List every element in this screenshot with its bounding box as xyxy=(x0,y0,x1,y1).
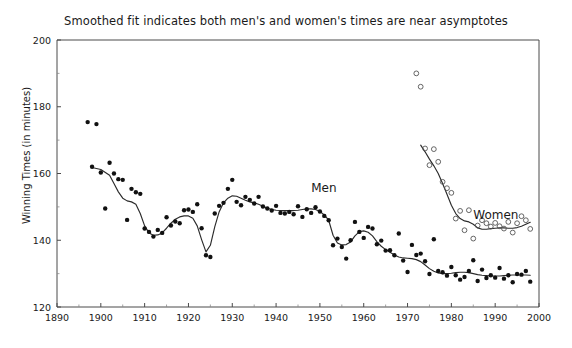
data-point xyxy=(300,215,304,219)
data-point xyxy=(519,272,523,276)
smoothed-fit-layer xyxy=(92,145,530,276)
data-point xyxy=(475,279,479,283)
data-point xyxy=(340,245,344,249)
data-point xyxy=(116,177,120,181)
data-point xyxy=(383,248,387,252)
data-point xyxy=(432,237,436,241)
data-point xyxy=(204,253,208,257)
data-point xyxy=(112,171,116,175)
data-point xyxy=(85,120,89,124)
data-point xyxy=(296,204,300,208)
data-point xyxy=(466,208,471,213)
data-point xyxy=(103,206,107,210)
data-point xyxy=(510,230,515,235)
series-label-women: Women xyxy=(473,208,518,222)
data-point xyxy=(291,212,295,216)
data-point xyxy=(353,220,357,224)
scatter-plot-svg: 1890190019101920193019401950196019701980… xyxy=(0,0,572,348)
data-point xyxy=(471,236,476,241)
data-point xyxy=(252,201,256,205)
data-point xyxy=(445,186,450,191)
data-point xyxy=(169,223,173,227)
data-point xyxy=(445,273,449,277)
data-point xyxy=(449,190,454,195)
data-point xyxy=(497,266,501,270)
x-tick-label: 1930 xyxy=(220,312,244,323)
data-point xyxy=(436,269,440,273)
data-point xyxy=(335,236,339,240)
data-point xyxy=(484,276,488,280)
x-tick-label: 1990 xyxy=(483,312,507,323)
data-point xyxy=(462,228,467,233)
data-point xyxy=(388,248,392,252)
data-point xyxy=(305,207,309,211)
data-point xyxy=(506,273,510,277)
data-point xyxy=(217,204,221,208)
axis-layer: 1890190019101920193019401950196019701980… xyxy=(33,35,551,324)
data-point xyxy=(515,272,519,276)
data-point xyxy=(94,122,98,126)
data-point xyxy=(405,270,409,274)
data-point xyxy=(309,211,313,215)
data-point xyxy=(502,276,506,280)
data-point xyxy=(160,231,164,235)
y-tick-label: 140 xyxy=(33,235,51,246)
chart-title: Smoothed fit indicates both men's and wo… xyxy=(0,14,572,28)
data-point xyxy=(375,242,379,246)
x-tick-label: 1940 xyxy=(264,312,288,323)
data-point xyxy=(142,226,146,230)
data-point xyxy=(440,270,444,274)
data-point xyxy=(414,71,419,76)
data-point xyxy=(274,204,278,208)
data-point xyxy=(458,208,463,213)
data-point xyxy=(528,279,532,283)
data-point xyxy=(234,200,238,204)
data-point xyxy=(471,258,475,262)
data-point xyxy=(186,207,190,211)
data-point xyxy=(423,259,427,263)
data-point xyxy=(401,258,405,262)
data-point xyxy=(129,187,133,191)
data-point xyxy=(121,178,125,182)
data-point xyxy=(519,214,524,219)
data-point xyxy=(261,204,265,208)
data-point xyxy=(278,211,282,215)
data-point xyxy=(392,253,396,257)
data-point xyxy=(326,218,330,222)
data-point xyxy=(313,205,317,209)
data-point xyxy=(265,206,269,210)
data-point xyxy=(528,227,533,232)
x-tick-label: 1910 xyxy=(133,312,157,323)
data-point xyxy=(208,255,212,259)
x-tick-label: 1890 xyxy=(45,312,69,323)
data-point xyxy=(322,214,326,218)
data-point xyxy=(379,238,383,242)
data-point xyxy=(467,269,471,273)
data-points-layer xyxy=(85,71,532,285)
series-annotation-layer: MenWomen xyxy=(311,181,518,222)
data-point xyxy=(357,230,361,234)
data-point xyxy=(427,272,431,276)
data-point xyxy=(213,211,217,215)
data-point xyxy=(195,202,199,206)
data-point xyxy=(410,243,414,247)
data-point xyxy=(427,163,432,168)
data-point xyxy=(287,210,291,214)
data-point xyxy=(270,208,274,212)
data-point xyxy=(173,219,177,223)
data-point xyxy=(182,208,186,212)
data-point xyxy=(454,273,458,277)
data-point xyxy=(230,178,234,182)
data-point xyxy=(524,269,528,273)
data-point xyxy=(431,147,436,152)
y-axis-title: Winning Times (in minutes) xyxy=(21,76,32,236)
data-point xyxy=(370,226,374,230)
data-point xyxy=(191,210,195,214)
data-point xyxy=(248,198,252,202)
series-label-men: Men xyxy=(311,181,336,195)
data-point xyxy=(151,234,155,238)
data-point xyxy=(397,231,401,235)
data-point xyxy=(138,192,142,196)
data-point xyxy=(462,275,466,279)
data-point xyxy=(436,159,441,164)
